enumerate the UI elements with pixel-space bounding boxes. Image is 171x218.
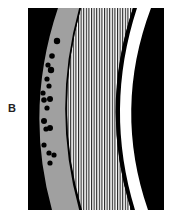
dot [47,160,52,165]
diagram-canvas [0,0,171,218]
dot [47,96,53,102]
dot [51,152,56,157]
dot [45,62,50,67]
dot [41,142,46,147]
dot [48,67,54,73]
dot [44,105,49,110]
dot [41,118,47,124]
dot [46,83,51,88]
dot [43,126,48,131]
dot [49,53,55,59]
dot [44,76,49,81]
dot [40,90,45,95]
dot [54,38,60,44]
dot [41,97,47,103]
dot [46,150,51,155]
